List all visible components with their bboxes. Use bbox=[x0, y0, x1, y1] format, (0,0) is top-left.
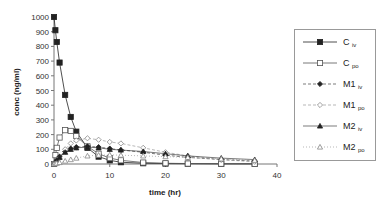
y-tick-label: 600 bbox=[36, 72, 50, 81]
y-tick-label: 400 bbox=[36, 101, 50, 110]
x-tick-label: 30 bbox=[217, 171, 226, 180]
plot-area bbox=[51, 14, 257, 166]
x-axis-title: time (hr) bbox=[149, 188, 181, 197]
legend-item: C iv bbox=[303, 37, 356, 48]
x-tick-label: 40 bbox=[273, 171, 282, 180]
y-axis-title: conc (ng/ml) bbox=[12, 68, 21, 116]
legend-item: M2 iv bbox=[303, 121, 362, 132]
legend-item: C po bbox=[303, 58, 359, 69]
legend: C ivC poM1 ivM1 poM2 ivM2 po bbox=[294, 29, 376, 161]
y-tick-label: 800 bbox=[36, 42, 50, 51]
legend-label: C iv bbox=[343, 37, 356, 48]
legend-label: M2 po bbox=[343, 142, 365, 153]
legend-label: M1 iv bbox=[343, 79, 362, 90]
axes: 0100200300400500600700800900100001020304… bbox=[31, 13, 282, 180]
y-tick-label: 500 bbox=[36, 87, 50, 96]
y-tick-label: 100 bbox=[36, 145, 50, 154]
legend-label: M2 iv bbox=[343, 121, 362, 132]
y-tick-label: 900 bbox=[36, 28, 50, 37]
legend-item: M1 po bbox=[303, 100, 365, 111]
x-tick-label: 20 bbox=[161, 171, 170, 180]
y-tick-label: 300 bbox=[36, 116, 50, 125]
legend-item: M2 po bbox=[303, 142, 365, 153]
legend-label: M1 po bbox=[343, 100, 365, 111]
series-c-iv bbox=[51, 14, 257, 166]
legend-label: C po bbox=[343, 58, 359, 69]
y-tick-label: 200 bbox=[36, 131, 50, 140]
x-tick-label: 0 bbox=[52, 171, 57, 180]
y-tick-label: 700 bbox=[36, 57, 50, 66]
series-c-po bbox=[51, 128, 257, 167]
legend-item: M1 iv bbox=[303, 79, 362, 90]
y-tick-label: 0 bbox=[45, 160, 50, 169]
y-tick-label: 1000 bbox=[31, 13, 49, 22]
x-tick-label: 10 bbox=[105, 171, 114, 180]
